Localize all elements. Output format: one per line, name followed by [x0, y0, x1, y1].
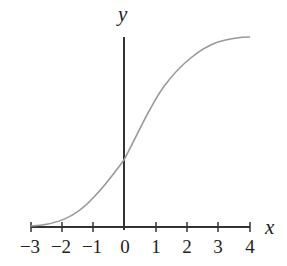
tick-label: −1	[82, 236, 102, 258]
plot	[0, 0, 287, 266]
x-axis-label: x	[265, 215, 274, 240]
tick-label: 1	[151, 236, 161, 258]
curve	[31, 37, 250, 226]
tick-label: 0	[120, 236, 130, 258]
tick-label: −3	[20, 236, 40, 258]
tick-label: 3	[213, 236, 223, 258]
y-axis-label: y	[118, 2, 127, 27]
tick-label: 2	[182, 236, 192, 258]
tick-label: −2	[51, 236, 71, 258]
tick-label: 4	[245, 236, 255, 258]
